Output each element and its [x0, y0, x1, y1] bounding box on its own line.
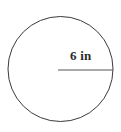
canvas-background — [0, 0, 121, 132]
geometry-diagram-svg — [0, 0, 121, 132]
figure-canvas: 6 in — [0, 0, 121, 132]
radius-length-label: 6 in — [70, 49, 91, 62]
